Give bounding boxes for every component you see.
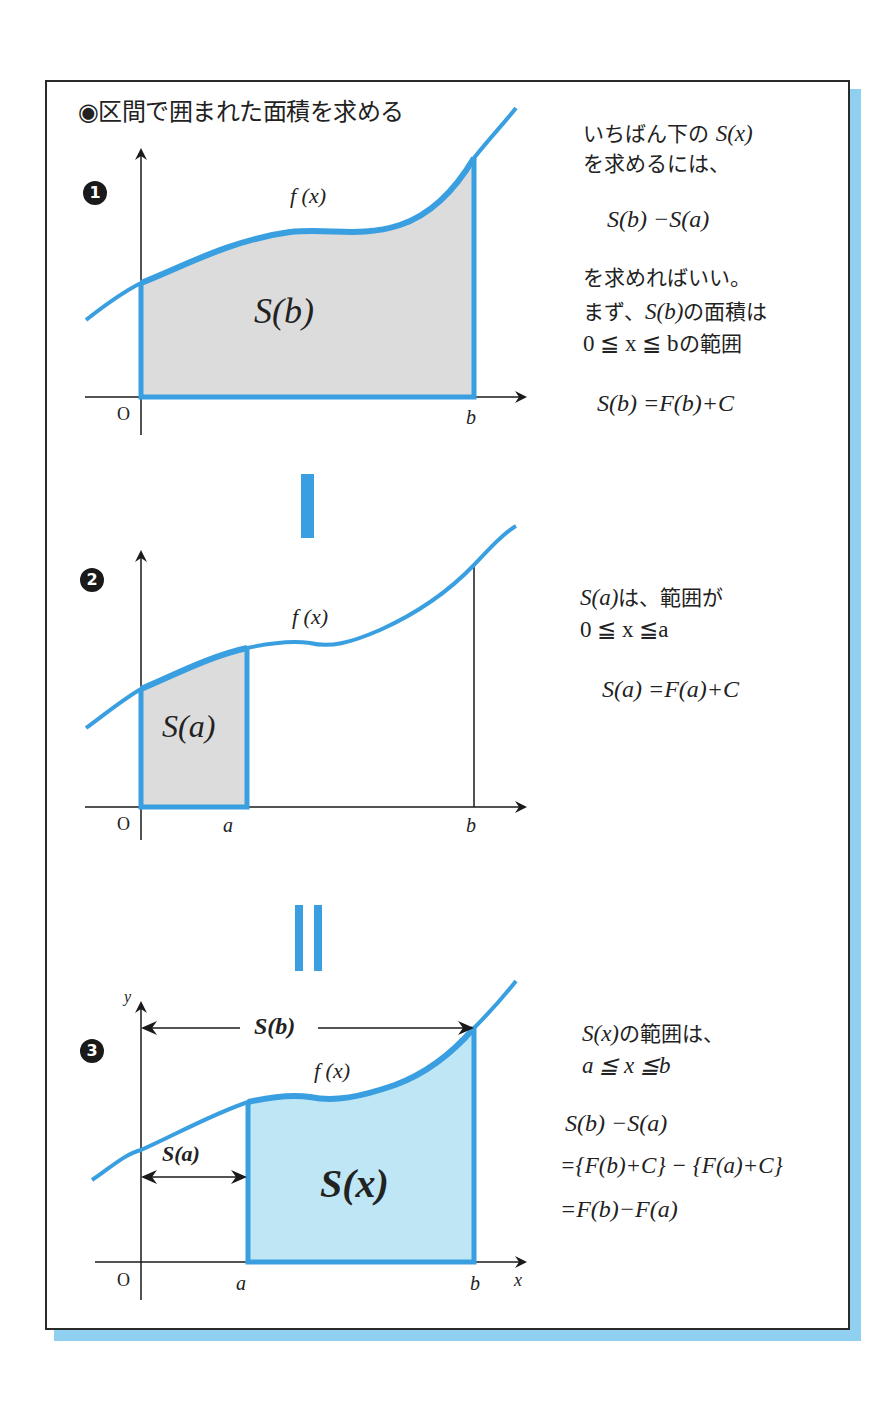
panel-3-formula-line-2: ={F(b)+C} − {F(a)+C}	[560, 1153, 783, 1179]
y-axis-label: y	[124, 988, 131, 1006]
text-math: 0 ≦ x ≦ b	[583, 331, 679, 356]
panel-2-explanation-line-1: S(a)は、範囲が	[580, 582, 723, 614]
panel-1-explanation-line-4: まず、S(b)の面積は	[583, 296, 767, 328]
x-axis-label: x	[514, 1270, 522, 1291]
b-label-text: b	[466, 814, 476, 836]
panel-1-explanation-line-3: を求めればいい。	[583, 264, 751, 293]
area-label-s-a: S(a)	[162, 708, 215, 745]
text-math: S(x)	[716, 121, 753, 146]
x-label-text: x	[514, 1270, 522, 1290]
curve-label-text: f (x)	[314, 1058, 350, 1083]
formula-text: S(b) −S(a)	[565, 1110, 667, 1136]
panel-3-explanation-line-1: S(x)の範囲は、	[582, 1018, 724, 1050]
panel-1-graph	[85, 108, 525, 435]
formula-text: ={F(b)+C} − {F(a)+C}	[560, 1153, 783, 1178]
text-math: S(x)	[582, 1021, 619, 1046]
a-label-text: a	[236, 1272, 246, 1294]
panel-3-explanation-line-2: a ≦ x ≦b	[582, 1050, 670, 1082]
area-label-s-b: S(b)	[254, 290, 314, 332]
b-tick-label: b	[466, 406, 476, 429]
area-label-text: S(b)	[254, 291, 314, 331]
origin-label: O	[117, 404, 130, 425]
span-label-text: S(b)	[254, 1013, 295, 1039]
panel-1-explanation-line-2: を求めるには、	[583, 150, 730, 179]
curve-label-text: f (x)	[292, 604, 328, 629]
panel-3-graph	[92, 981, 525, 1300]
equals-sign-bar-2	[314, 905, 322, 971]
curve-label-f-x: f (x)	[314, 1058, 350, 1084]
text-math: 0 ≦ x ≦a	[580, 617, 668, 642]
panel-3-formula-line-3: =F(b)−F(a)	[560, 1196, 678, 1223]
text-jp: は、範囲が	[618, 586, 723, 610]
diagram-canvas	[0, 0, 891, 1409]
text-math: S(a)	[580, 585, 618, 610]
text-jp: まず、	[583, 300, 645, 324]
panel-1-formula-difference: S(b) −S(a)	[607, 206, 709, 233]
b-label-text: b	[466, 406, 476, 428]
b-label-text: b	[470, 1272, 480, 1294]
y-label-text: y	[124, 988, 131, 1005]
formula-text: S(b) =F(b)+C	[597, 390, 734, 416]
area-label-text: S(x)	[320, 1161, 389, 1206]
a-tick-label: a	[236, 1272, 246, 1295]
step-badge-2: 2	[80, 568, 104, 592]
panel-1-formula-s-b: S(b) =F(b)+C	[597, 390, 734, 417]
minus-sign	[301, 474, 314, 538]
equals-sign-bar-1	[295, 905, 303, 971]
formula-text: S(b) −S(a)	[607, 206, 709, 232]
span-label-s-b: S(b)	[254, 1013, 295, 1040]
area-label-s-x: S(x)	[320, 1160, 389, 1207]
text-jp: の範囲は、	[619, 1022, 724, 1046]
a-tick-label: a	[223, 814, 233, 837]
curve-label-f-x: f (x)	[292, 604, 328, 630]
step-badge-3: 3	[80, 1039, 104, 1063]
b-tick-label: b	[466, 814, 476, 837]
b-tick-label: b	[470, 1272, 480, 1295]
text-math: a ≦ x ≦b	[582, 1053, 670, 1078]
formula-text: =F(b)−F(a)	[560, 1196, 678, 1222]
formula-text: S(a) =F(a)+C	[602, 676, 739, 702]
origin-label: O	[117, 814, 130, 835]
panel-2-formula-s-a: S(a) =F(a)+C	[602, 676, 739, 703]
step-badge-1: 1	[83, 181, 107, 205]
text-jp: の面積は	[683, 300, 767, 324]
curve-label-text: f (x)	[290, 183, 326, 208]
panel-2-explanation-line-2: 0 ≦ x ≦a	[580, 614, 668, 646]
text-jp: いちばん下の	[583, 122, 709, 146]
span-label-text: S(a)	[162, 1141, 200, 1166]
panel-3-formula-line-1: S(b) −S(a)	[565, 1110, 667, 1137]
curve-label-f-x: f (x)	[290, 183, 326, 209]
text-math: S(b)	[645, 299, 683, 324]
area-label-text: S(a)	[162, 708, 215, 744]
origin-label: O	[117, 1270, 130, 1291]
panel-1-explanation-line-5: 0 ≦ x ≦ bの範囲	[583, 328, 742, 360]
panel-2-graph	[85, 526, 525, 840]
a-label-text: a	[223, 814, 233, 836]
span-label-s-a: S(a)	[162, 1141, 200, 1167]
text-jp: の範囲	[679, 332, 742, 356]
panel-1-explanation-line-1: いちばん下の S(x)	[583, 118, 753, 150]
